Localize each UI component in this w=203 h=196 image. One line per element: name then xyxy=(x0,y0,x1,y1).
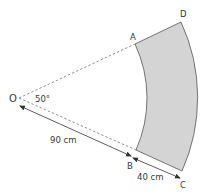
point-label-A: A xyxy=(130,32,136,42)
radius-label-90cm: 90 cm xyxy=(50,135,76,145)
point-label-C: C xyxy=(180,180,186,190)
point-label-O: O xyxy=(9,93,17,104)
point-label-D: D xyxy=(180,9,187,19)
sector-diagram: O A D B C 50° 90 cm 40 cm xyxy=(0,0,203,196)
dimension-arrow-90cm xyxy=(20,106,131,156)
shaded-region xyxy=(135,22,198,171)
dashed-radius-OA xyxy=(19,44,135,98)
point-label-B: B xyxy=(127,161,133,171)
dashed-radius-OB xyxy=(19,98,136,150)
width-label-40cm: 40 cm xyxy=(137,172,163,182)
angle-label: 50° xyxy=(35,94,50,104)
